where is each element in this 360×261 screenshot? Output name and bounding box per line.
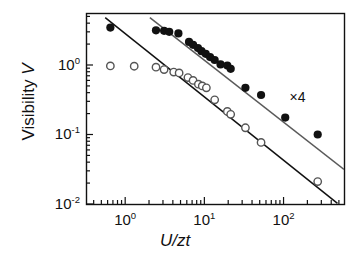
data-point-filled	[174, 29, 182, 37]
data-point-open	[107, 62, 114, 69]
data-point-filled	[106, 24, 114, 32]
data-point-filled	[152, 26, 160, 34]
data-point-filled	[281, 114, 289, 122]
y-tick-label: 10-1	[34, 124, 80, 142]
scale-annotation: ×4	[289, 89, 305, 105]
data-point-filled	[165, 28, 173, 36]
x-tick-label: 102	[261, 210, 307, 228]
data-point-open	[257, 139, 264, 146]
series-filled-circles	[106, 24, 322, 139]
data-point-open	[175, 69, 182, 76]
data-point-open	[152, 63, 159, 70]
x-tick-label: 101	[181, 210, 227, 228]
data-point-filled	[257, 91, 265, 99]
data-point-open	[203, 84, 210, 91]
lower-fit-line	[105, 18, 337, 204]
y-tick-label: 10-2	[34, 194, 80, 212]
data-point-filled	[227, 65, 235, 73]
y-tick-label: 100	[34, 55, 80, 73]
data-point-open	[160, 66, 167, 73]
x-tick-label: 100	[102, 210, 148, 228]
data-point-filled	[216, 60, 224, 68]
data-point-open	[211, 96, 218, 103]
data-point-open	[242, 124, 249, 131]
series-open-circles	[107, 62, 322, 185]
data-point-filled	[241, 84, 249, 92]
data-point-filled	[314, 130, 322, 138]
data-point-open	[131, 63, 138, 70]
upper-fit-line	[150, 18, 344, 170]
figure-chart: Visibility V U/zt 10010-110-2100101102 ×…	[0, 0, 360, 261]
data-point-open	[227, 111, 234, 118]
data-point-open	[314, 178, 321, 185]
axes-frame	[87, 14, 345, 205]
